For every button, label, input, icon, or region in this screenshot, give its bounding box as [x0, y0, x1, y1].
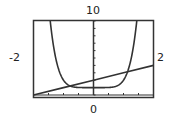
- plot-area: [0, 0, 174, 121]
